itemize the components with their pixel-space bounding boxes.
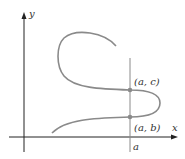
y-axis-label: y [28, 8, 35, 19]
vertical-line-label: a [133, 141, 139, 152]
x-axis-arrow-icon [171, 135, 178, 140]
point-label-a-c: (a, c) [134, 76, 160, 87]
x-axis-label: x [172, 122, 178, 133]
diagram-canvas: y x a (a, c) (a, b) [0, 0, 185, 159]
point-label-a-b: (a, b) [134, 122, 161, 133]
y-axis-arrow-icon [22, 12, 27, 19]
point-a-b [128, 115, 133, 120]
point-a-c [128, 88, 133, 93]
